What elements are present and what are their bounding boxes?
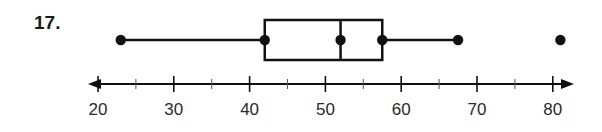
tick-label: 70: [468, 100, 487, 119]
right-arrow-icon: [561, 79, 574, 89]
q3-point: [377, 35, 387, 45]
median-point: [335, 35, 345, 45]
tick-label: 20: [89, 100, 108, 119]
tick-label: 60: [392, 100, 411, 119]
outlier-point: [555, 35, 565, 45]
tick-label: 50: [316, 100, 335, 119]
left-arrow-icon: [88, 79, 101, 89]
min-point: [116, 35, 126, 45]
max-point: [453, 35, 463, 45]
box-plot: 20304050607080: [0, 0, 602, 132]
iqr-box: [265, 20, 382, 60]
tick-label: 40: [240, 100, 259, 119]
q1-point: [260, 35, 270, 45]
tick-label: 80: [543, 100, 562, 119]
tick-label: 30: [164, 100, 183, 119]
